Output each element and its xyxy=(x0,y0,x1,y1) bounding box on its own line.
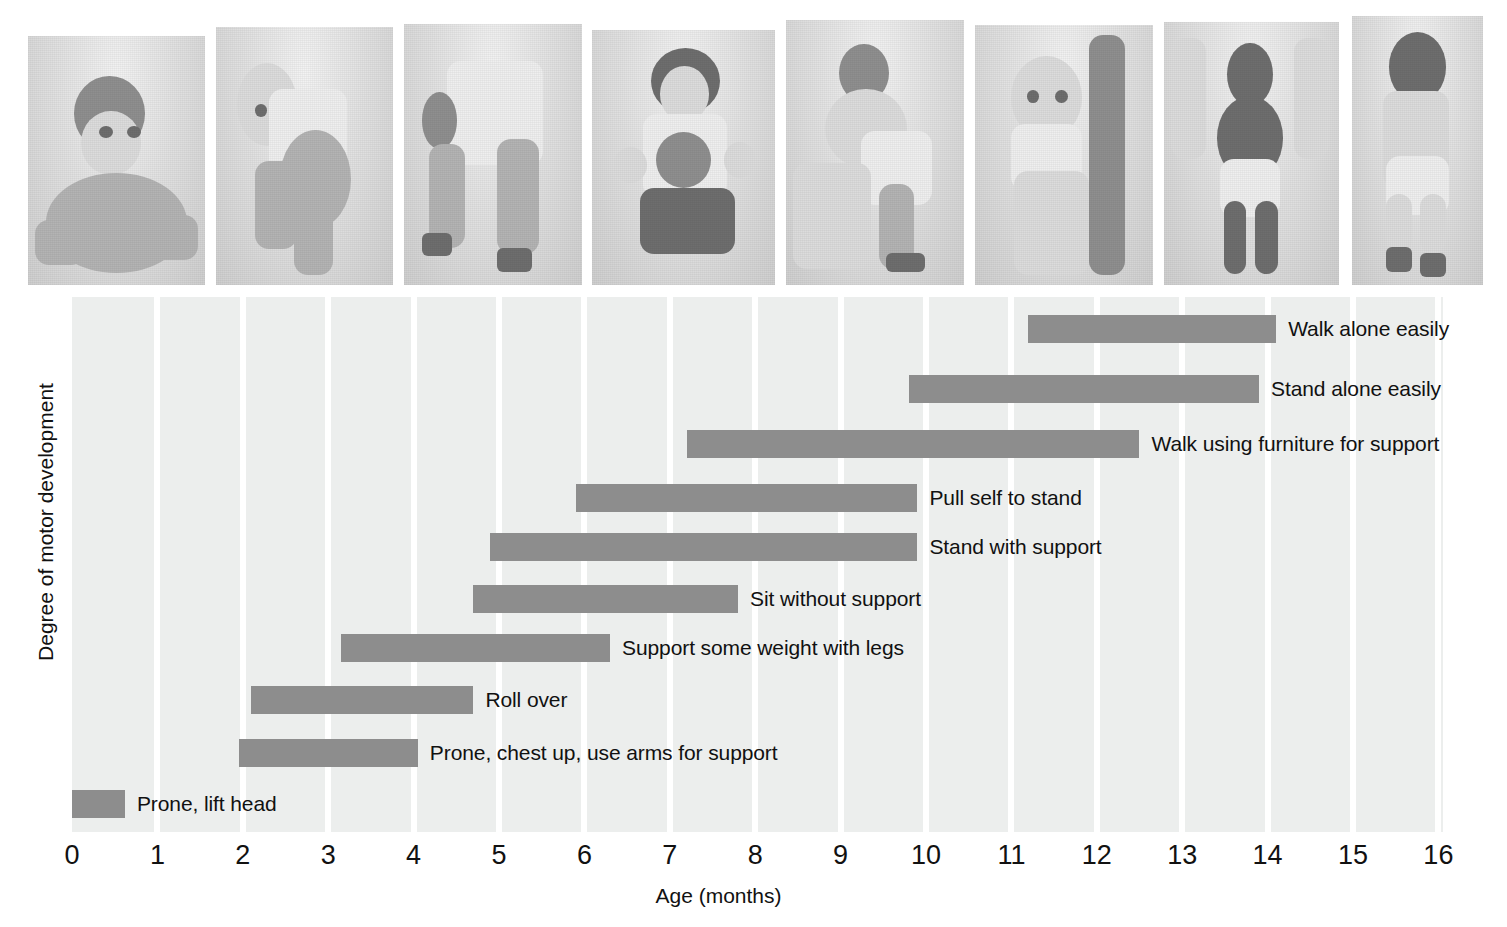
photo-grain xyxy=(975,25,1153,285)
milestone-label: Stand alone easily xyxy=(1271,375,1441,403)
photo-rolling-over xyxy=(216,27,393,285)
x-tick-label-13: 13 xyxy=(1152,840,1212,871)
gridline-month-9 xyxy=(838,297,844,832)
x-tick-label-8: 8 xyxy=(725,840,785,871)
milestone-bar[interactable] xyxy=(341,634,610,662)
milestone-label: Walk alone easily xyxy=(1288,315,1449,343)
x-tick-label-6: 6 xyxy=(554,840,614,871)
x-tick-label-5: 5 xyxy=(469,840,529,871)
milestone-label: Prone, chest up, use arms for support xyxy=(430,739,778,767)
photo-grain xyxy=(1352,16,1483,285)
photo-grain xyxy=(1164,22,1339,285)
photo-strip xyxy=(0,0,1507,292)
milestone-bar[interactable] xyxy=(72,790,125,818)
milestone-label: Support some weight with legs xyxy=(622,634,904,662)
x-tick-label-4: 4 xyxy=(384,840,444,871)
photo-sitting-without-support xyxy=(592,30,775,285)
x-tick-label-16: 16 xyxy=(1408,840,1468,871)
gridline-month-1 xyxy=(154,297,160,832)
photo-prone-lift-head xyxy=(28,36,205,285)
photo-walk-alone xyxy=(1352,16,1483,285)
milestone-label: Pull self to stand xyxy=(929,484,1081,512)
x-axis-title: Age (months) xyxy=(0,884,1507,908)
milestone-label: Roll over xyxy=(485,686,567,714)
milestone-bar[interactable] xyxy=(909,375,1259,403)
x-tick-label-10: 10 xyxy=(896,840,956,871)
photo-grain xyxy=(216,27,393,285)
milestone-label: Stand with support xyxy=(929,533,1101,561)
photo-pull-self-to-stand xyxy=(786,20,964,285)
photo-grain xyxy=(404,24,582,285)
x-tick-label-14: 14 xyxy=(1238,840,1298,871)
milestone-bar[interactable] xyxy=(239,739,418,767)
milestone-bar[interactable] xyxy=(251,686,473,714)
milestone-label: Walk using furniture for support xyxy=(1152,430,1440,458)
photo-walk-with-help xyxy=(1164,22,1339,285)
milestone-label: Sit without support xyxy=(750,585,921,613)
gridline-month-14 xyxy=(1265,297,1271,832)
photo-supporting-weight xyxy=(404,24,582,285)
x-tick-label-11: 11 xyxy=(981,840,1041,871)
milestone-bar[interactable] xyxy=(1028,315,1276,343)
x-tick-label-0: 0 xyxy=(42,840,102,871)
milestone-bar[interactable] xyxy=(473,585,738,613)
x-tick-label-2: 2 xyxy=(213,840,273,871)
photo-stand-with-support xyxy=(975,25,1153,285)
x-axis-tick-row: 012345678910111213141516 xyxy=(0,840,1507,874)
x-axis-title-text: Age (months) xyxy=(655,884,781,908)
photo-grain xyxy=(28,36,205,285)
x-tick-label-7: 7 xyxy=(640,840,700,871)
y-axis-title: Degree of motor development xyxy=(34,262,58,782)
chart-plot-area: Walk alone easilyStand alone easilyWalk … xyxy=(72,297,1443,832)
x-tick-label-12: 12 xyxy=(1067,840,1127,871)
x-tick-label-9: 9 xyxy=(811,840,871,871)
milestone-label: Prone, lift head xyxy=(137,790,277,818)
x-tick-label-3: 3 xyxy=(298,840,358,871)
x-tick-label-1: 1 xyxy=(127,840,187,871)
milestone-bar[interactable] xyxy=(490,533,917,561)
milestone-bar[interactable] xyxy=(576,484,918,512)
milestone-bar[interactable] xyxy=(687,430,1140,458)
photo-grain xyxy=(786,20,964,285)
x-tick-label-15: 15 xyxy=(1323,840,1383,871)
photo-grain xyxy=(592,30,775,285)
